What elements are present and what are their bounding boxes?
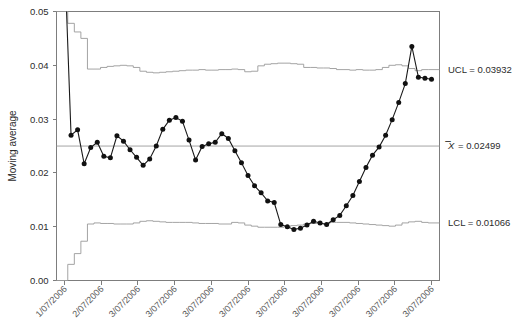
data-point	[324, 222, 329, 227]
data-point	[121, 139, 126, 144]
y-tick-label: 0.05	[30, 6, 49, 17]
moving-average-line	[65, 0, 432, 229]
data-point	[180, 119, 185, 124]
data-point	[285, 224, 290, 229]
x-axis-ticks	[65, 281, 432, 285]
data-point	[291, 227, 296, 232]
x-tick-label: 3/07/2006	[107, 284, 142, 319]
data-point	[200, 144, 205, 149]
data-point	[377, 145, 382, 150]
y-tick-label: 0.00	[30, 275, 49, 286]
x-tick-label: 3/07/2006	[364, 284, 399, 319]
x-tick-label: 3/07/2006	[144, 284, 179, 319]
data-point	[422, 76, 427, 81]
x-tick-label: 3/07/2006	[217, 284, 252, 319]
data-point	[298, 226, 303, 231]
data-point	[403, 81, 408, 86]
y-tick-label: 0.03	[30, 114, 49, 125]
data-point	[101, 154, 106, 159]
control-chart: 0.000.010.020.030.040.05 1/07/20062/07/2…	[0, 0, 522, 336]
x-double-bar-symbol: X	[447, 140, 455, 151]
data-point	[370, 153, 375, 158]
data-point	[173, 115, 178, 120]
data-point	[337, 213, 342, 218]
data-point	[232, 148, 237, 153]
data-point	[246, 173, 251, 178]
x-tick-label: 3/07/2006	[401, 284, 436, 319]
y-axis-ticks	[53, 12, 57, 281]
data-point	[304, 223, 309, 228]
data-point	[239, 160, 244, 165]
x-tick-label: 3/07/2006	[180, 284, 215, 319]
data-point	[160, 127, 165, 132]
y-axis-title: Moving average	[7, 110, 18, 182]
lcl-annotation: LCL = 0.01066	[448, 217, 510, 228]
data-point	[318, 220, 323, 225]
x-tick-label: 1/07/2006	[34, 284, 69, 319]
centerline-annotation: X ̅̅ = 0.02499	[445, 140, 501, 151]
data-point	[114, 133, 119, 138]
data-point	[259, 190, 264, 195]
data-point	[82, 161, 87, 166]
y-tick-label: 0.01	[30, 221, 49, 232]
data-point	[128, 147, 133, 152]
data-point	[193, 157, 198, 162]
data-point	[69, 133, 74, 138]
data-point	[187, 138, 192, 143]
data-point	[409, 44, 414, 49]
limit-annotations: UCL = 0.03932 X ̅̅ = 0.02499 LCL = 0.010…	[445, 64, 512, 228]
data-point	[363, 165, 368, 170]
data-point	[147, 156, 152, 161]
data-point	[108, 155, 113, 160]
ucl-step-line	[57, 12, 440, 73]
data-point	[88, 145, 93, 150]
data-point	[272, 200, 277, 205]
data-point	[167, 118, 172, 123]
data-point	[429, 77, 434, 82]
y-tick-label: 0.02	[30, 167, 49, 178]
data-point	[311, 219, 316, 224]
data-point	[95, 140, 100, 145]
y-tick-label: 0.04	[30, 60, 49, 71]
data-point	[213, 140, 218, 145]
data-point	[390, 117, 395, 122]
lcl-step-line	[57, 221, 440, 281]
data-point	[252, 183, 257, 188]
y-axis-tick-labels: 0.000.010.020.030.040.05	[30, 6, 49, 286]
data-point	[75, 127, 80, 132]
x-tick-label: 3/07/2006	[254, 284, 289, 319]
data-point	[265, 198, 270, 203]
data-point	[383, 133, 388, 138]
data-point	[344, 203, 349, 208]
data-point	[331, 217, 336, 222]
data-point	[141, 163, 146, 168]
data-point	[206, 141, 211, 146]
control-chart-canvas: 0.000.010.020.030.040.05 1/07/20062/07/2…	[0, 0, 522, 336]
x-axis-tick-labels: 1/07/20062/07/20063/07/20063/07/20063/07…	[34, 284, 436, 319]
x-tick-label: 3/07/2006	[327, 284, 362, 319]
data-point	[278, 222, 283, 227]
data-point	[416, 75, 421, 80]
ucl-annotation: UCL = 0.03932	[448, 64, 512, 75]
x-tick-label: 2/07/2006	[70, 284, 105, 319]
data-point	[219, 131, 224, 136]
data-point	[134, 155, 139, 160]
data-point	[350, 193, 355, 198]
centerline-annotation-text: = 0.02499	[458, 140, 501, 151]
data-point	[357, 179, 362, 184]
data-point	[226, 136, 231, 141]
data-point	[154, 144, 159, 149]
x-tick-label: 3/07/2006	[290, 284, 325, 319]
data-series	[65, 0, 435, 232]
data-point	[396, 100, 401, 105]
